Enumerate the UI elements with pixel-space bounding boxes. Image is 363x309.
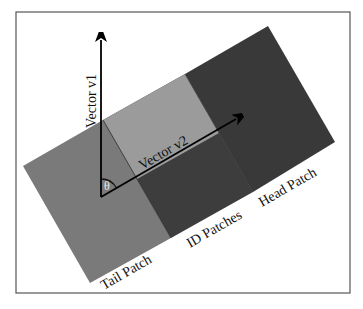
vector-v1-label: Vector v1	[84, 74, 99, 128]
patch-orientation-diagram: θ Vector v1 Vector v2 Tail Patch ID Patc…	[0, 0, 363, 309]
diagram-canvas: θ Vector v1 Vector v2 Tail Patch ID Patc…	[0, 0, 363, 309]
theta-symbol: θ	[104, 179, 110, 193]
